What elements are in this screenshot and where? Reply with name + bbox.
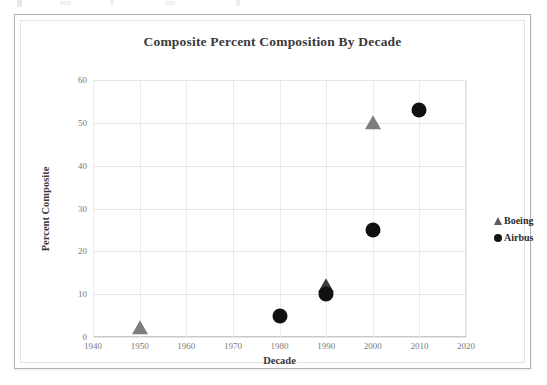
chart-legend: Boeing Airbus	[492, 212, 533, 246]
triangle-icon	[492, 217, 503, 225]
data-point-airbus-1980	[272, 308, 287, 323]
gridline-vertical	[419, 80, 420, 337]
x-tick-label: 1960	[177, 341, 195, 351]
data-point-boeing-1950	[132, 321, 148, 335]
y-tick-label: 60	[78, 75, 87, 85]
data-point-airbus-1990	[319, 287, 334, 302]
x-tick-label: 2020	[457, 341, 475, 351]
y-axis-title: Percent Composite	[40, 167, 51, 252]
y-tick-label: 20	[78, 246, 87, 256]
x-tick-label: 1970	[224, 341, 242, 351]
figure-inner-border: Composite Percent Composition By Decade …	[20, 20, 525, 363]
scan-artifacts	[0, 0, 547, 12]
gridline-horizontal	[93, 337, 466, 338]
y-tick-label: 40	[78, 161, 87, 171]
figure-frame: Composite Percent Composition By Decade …	[14, 14, 531, 369]
plot-area: 0102030405060 19401950196019701980199020…	[93, 80, 466, 337]
data-point-boeing-2000	[365, 115, 381, 129]
x-tick-label: 2010	[410, 341, 428, 351]
gridline-vertical	[466, 80, 467, 337]
gridline-vertical	[186, 80, 187, 337]
legend-item-boeing: Boeing	[492, 212, 533, 229]
x-tick-label: 1980	[271, 341, 289, 351]
x-axis-title: Decade	[93, 355, 466, 366]
y-tick-label: 10	[78, 289, 87, 299]
data-point-airbus-2010	[412, 102, 427, 117]
x-tick-label: 1940	[84, 341, 102, 351]
gridline-vertical	[280, 80, 281, 337]
chart-title: Composite Percent Composition By Decade	[21, 34, 524, 50]
gridline-vertical	[93, 80, 94, 337]
gridline-vertical	[233, 80, 234, 337]
y-tick-label: 50	[78, 118, 87, 128]
x-tick-label: 1990	[317, 341, 335, 351]
data-point-airbus-2000	[365, 222, 380, 237]
x-tick-label: 1950	[131, 341, 149, 351]
circle-icon	[492, 234, 503, 242]
legend-item-airbus: Airbus	[492, 229, 533, 246]
legend-label-airbus: Airbus	[504, 232, 533, 243]
x-tick-label: 2000	[364, 341, 382, 351]
y-tick-label: 30	[78, 204, 87, 214]
gridline-vertical	[140, 80, 141, 337]
legend-label-boeing: Boeing	[504, 215, 533, 226]
